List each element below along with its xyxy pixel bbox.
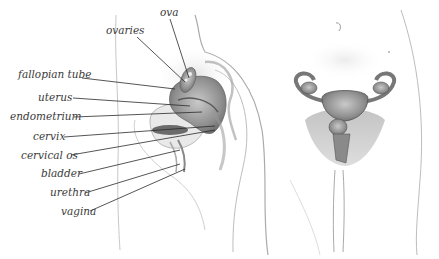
label-ovaries: ovaries <box>106 25 145 36</box>
leader-urethra <box>85 164 180 193</box>
illustration <box>0 0 439 259</box>
label-cervix: cervix <box>33 131 65 142</box>
label-endometrium: endometrium <box>10 111 82 122</box>
label-ova: ova <box>160 7 179 18</box>
label-uterus: uterus <box>38 92 72 103</box>
anatomy-diagram: ova ovaries fallopian tube uterus endome… <box>0 0 439 259</box>
label-vagina: vagina <box>61 206 96 217</box>
label-fallopian-tube: fallopian tube <box>18 69 92 80</box>
label-urethra: urethra <box>50 187 90 198</box>
front-view <box>290 10 422 255</box>
leader-vagina <box>90 169 185 211</box>
side-view <box>116 15 268 255</box>
label-bladder: bladder <box>41 168 82 179</box>
label-cervical-os: cervical os <box>21 150 78 161</box>
